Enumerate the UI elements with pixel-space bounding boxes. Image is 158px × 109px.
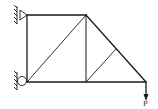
member-diagonal-right: [86, 49, 116, 82]
roller-support-icon: [14, 71, 27, 90]
load-arrow-icon: [144, 82, 149, 101]
truss-diagram: [0, 0, 158, 109]
member-diagonal-left: [27, 15, 86, 82]
load-label: P: [143, 101, 148, 108]
pin-support-icon: [14, 5, 27, 24]
